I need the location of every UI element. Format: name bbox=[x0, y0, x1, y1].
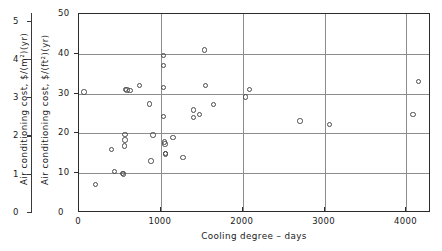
data-point bbox=[327, 122, 332, 127]
secondary-y-tick-label: 2 bbox=[13, 130, 19, 140]
x-tick-label: 1000 bbox=[148, 216, 171, 226]
secondary-y-axis-title: Air conditioning cost, $/(m²)(yr) bbox=[19, 35, 29, 185]
secondary-y-tick-mark bbox=[27, 212, 32, 213]
data-point bbox=[137, 83, 142, 88]
data-point bbox=[197, 112, 202, 117]
data-point bbox=[150, 132, 155, 137]
gridline-y-40 bbox=[79, 54, 429, 55]
data-point bbox=[416, 79, 421, 84]
data-point bbox=[147, 101, 152, 106]
primary-y-axis-title: Air conditioning cost, $/(ft²)(yr) bbox=[40, 35, 50, 185]
gridline-y-10 bbox=[79, 173, 429, 174]
data-point bbox=[161, 114, 166, 119]
primary-y-tick-label: 20 bbox=[58, 127, 69, 137]
x-tick-mark bbox=[160, 207, 161, 212]
data-point bbox=[180, 155, 185, 160]
plot-area bbox=[78, 13, 430, 212]
data-point bbox=[148, 158, 153, 163]
data-point bbox=[203, 83, 208, 88]
primary-y-tick-label: 40 bbox=[58, 48, 69, 58]
data-point bbox=[122, 143, 127, 148]
x-tick-mark bbox=[324, 207, 325, 212]
data-point bbox=[247, 87, 252, 92]
secondary-y-tick-label: 4 bbox=[13, 54, 19, 64]
data-point bbox=[127, 88, 132, 93]
gridline-x-1000 bbox=[161, 14, 162, 211]
data-point bbox=[121, 171, 126, 176]
x-tick-label: 4000 bbox=[394, 216, 417, 226]
secondary-y-tick-mark bbox=[27, 59, 32, 60]
secondary-y-tick-label: 5 bbox=[13, 16, 19, 26]
secondary-y-tick-label: 3 bbox=[13, 92, 19, 102]
data-point bbox=[109, 147, 114, 152]
data-point bbox=[191, 115, 196, 120]
data-point bbox=[81, 89, 86, 94]
data-point bbox=[161, 53, 166, 58]
data-point bbox=[202, 47, 207, 52]
x-tick-mark bbox=[405, 207, 406, 212]
data-point bbox=[191, 107, 196, 112]
gridline-x-4000 bbox=[406, 14, 407, 211]
data-point bbox=[211, 102, 216, 107]
secondary-y-tick-mark bbox=[27, 135, 32, 136]
data-point bbox=[122, 137, 127, 142]
gridline-y-30 bbox=[79, 94, 429, 95]
x-tick-label: 3000 bbox=[312, 216, 335, 226]
secondary-y-tick-label: 1 bbox=[13, 169, 19, 179]
primary-y-tick-label: 10 bbox=[58, 167, 69, 177]
data-point bbox=[170, 135, 175, 140]
data-point bbox=[93, 182, 98, 187]
secondary-y-tick-mark bbox=[27, 97, 32, 98]
x-axis-title: Cooling degree – days bbox=[78, 231, 430, 241]
x-tick-label: 0 bbox=[75, 216, 81, 226]
x-tick-mark bbox=[242, 207, 243, 212]
gridline-x-3000 bbox=[325, 14, 326, 211]
gridline-x-2000 bbox=[243, 14, 244, 211]
gridline-y-20 bbox=[79, 133, 429, 134]
data-point bbox=[112, 169, 117, 174]
data-point bbox=[162, 141, 167, 146]
data-point bbox=[163, 151, 168, 156]
data-point bbox=[410, 112, 415, 117]
data-point bbox=[161, 63, 166, 68]
secondary-y-axis bbox=[31, 13, 32, 212]
data-point bbox=[243, 94, 248, 99]
data-point bbox=[297, 118, 302, 123]
primary-y-tick-label: 30 bbox=[58, 88, 69, 98]
data-point bbox=[122, 132, 127, 137]
primary-y-tick-label: 0 bbox=[58, 207, 64, 217]
chart-figure: Air conditioning cost, $/(m²)(yr) 543210… bbox=[0, 0, 442, 251]
secondary-y-tick-mark bbox=[27, 174, 32, 175]
secondary-y-tick-label: 0 bbox=[13, 207, 19, 217]
x-tick-label: 2000 bbox=[230, 216, 253, 226]
secondary-y-tick-mark bbox=[27, 21, 32, 22]
primary-y-tick-label: 50 bbox=[58, 8, 69, 18]
data-point bbox=[161, 85, 166, 90]
